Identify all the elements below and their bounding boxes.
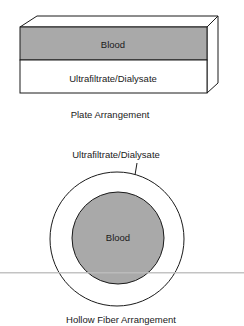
plate-dialysate-label: Ultrafiltrate/Dialysate	[69, 73, 157, 84]
plate-arrangement: Blood Ultrafiltrate/Dialysate Plate Arra…	[20, 16, 218, 120]
fiber-caption: Hollow Fiber Arrangement	[66, 314, 176, 325]
plate-top-face	[20, 16, 218, 27]
dialyzer-diagram: Blood Ultrafiltrate/Dialysate Plate Arra…	[0, 0, 244, 326]
fiber-blood-label: Blood	[106, 232, 130, 243]
fiber-dialysate-label: Ultrafiltrate/Dialysate	[72, 149, 160, 160]
plate-caption: Plate Arrangement	[71, 109, 150, 120]
plate-side-face	[207, 16, 218, 93]
hollow-fiber-arrangement: Ultrafiltrate/Dialysate Blood Hollow Fib…	[0, 149, 244, 325]
scan-line	[0, 272, 244, 274]
plate-blood-label: Blood	[101, 39, 125, 50]
